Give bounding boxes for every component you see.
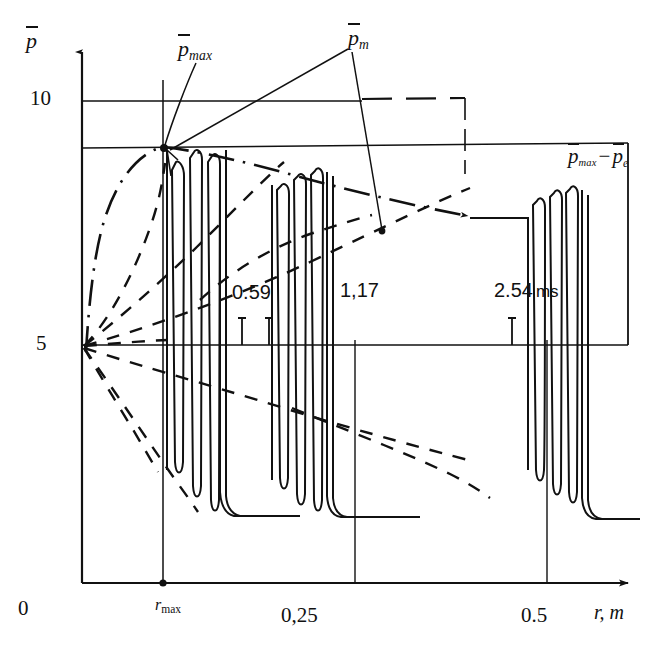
- bracket-right-subscript: e: [623, 157, 628, 169]
- bracket-operator: −: [597, 144, 613, 168]
- pmax-annotation: pmax: [178, 38, 212, 63]
- reference-line-p10-dashed: [362, 98, 465, 99]
- pm-annotation: pm: [348, 27, 369, 52]
- pm-point-dot: [379, 228, 386, 235]
- pressure-distribution-figure: p 10 5 pmax pm pmax−pe 0.59 1,17 2.54ms …: [0, 0, 659, 650]
- pm-leader-to-point2: [352, 52, 382, 230]
- x-axis-label: r, m: [594, 602, 624, 622]
- x-tick-0-5: 0.5: [521, 605, 547, 626]
- cluster2-spike-a: [277, 184, 289, 488]
- x-tick-rmax-sub: max: [161, 603, 181, 615]
- pm-subscript: m: [359, 37, 369, 52]
- dashed-fan-lower-a: [84, 348, 468, 460]
- x-tick-0: 0: [18, 598, 29, 619]
- spike-base-ticks: [238, 318, 516, 345]
- cluster3-outer-right: [588, 195, 602, 519]
- pm-leader-to-point1: [170, 49, 348, 150]
- dashed-fan-curves: [84, 162, 490, 512]
- cluster2-spike-c: [311, 168, 323, 510]
- tick-cluster3: [508, 318, 516, 345]
- cluster3-tail: [582, 190, 640, 519]
- time-label-0-59: 0.59: [232, 282, 271, 302]
- x-tick-rmax: rmax: [155, 597, 181, 616]
- dashed-fan-lower-c: [84, 348, 158, 472]
- plot-canvas: [0, 0, 659, 650]
- cluster1-spike-b: [190, 150, 202, 496]
- time-label-2-54-unit: ms: [533, 282, 559, 301]
- y-axis-label: p: [26, 30, 37, 52]
- cluster1-spike-c: [208, 154, 220, 510]
- time-label-2-54: 2.54ms: [494, 280, 559, 300]
- cluster2-spike-b: [294, 174, 306, 504]
- pmax-minus-pe-label: pmax−pe: [568, 146, 628, 169]
- rmax-axis-point: [159, 579, 166, 586]
- dashed-fan-lower-b: [84, 348, 198, 512]
- cluster3-spike-b: [550, 190, 562, 494]
- pmax-leader: [165, 63, 196, 145]
- time-label-2-54-value: 2.54: [494, 279, 533, 301]
- reference-lines: [82, 98, 628, 345]
- cluster3-spike-a: [533, 198, 545, 480]
- cluster1-outer-right: [226, 150, 240, 516]
- tick-cluster1: [238, 318, 246, 345]
- y-tick-5: 5: [36, 333, 47, 354]
- bracket-left-subscript: max: [579, 157, 597, 168]
- x-tick-0-25: 0,25: [281, 605, 318, 626]
- dashdot-rise: [86, 147, 163, 352]
- time-label-1-17: 1,17: [340, 280, 379, 300]
- cluster3-envelope-left: [470, 218, 528, 470]
- spike-cluster-3: [470, 186, 640, 519]
- y-tick-10: 10: [30, 88, 51, 109]
- cluster2-outer-right: [333, 176, 347, 517]
- pmax-subscript: max: [189, 48, 212, 63]
